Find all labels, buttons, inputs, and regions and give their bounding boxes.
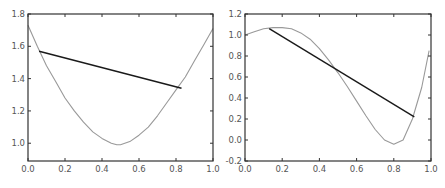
- x-tick-label: 0.2: [275, 164, 289, 174]
- figure-caption-clipped: [0, 182, 445, 188]
- curve-line: [245, 28, 429, 145]
- curve-line: [28, 25, 213, 145]
- y-tick-label: 1.6: [11, 41, 25, 51]
- x-tick-label: 0.4: [313, 164, 327, 174]
- x-tick-label: 0.8: [387, 164, 401, 174]
- x-tick-label: 0.2: [58, 164, 72, 174]
- y-tick-label: 0.2: [228, 114, 242, 124]
- secant-line: [39, 51, 181, 88]
- y-tick-label: 0.8: [228, 51, 242, 61]
- x-tick-label: 0.6: [132, 164, 146, 174]
- y-tick-label: -0.2: [225, 156, 242, 166]
- y-tick-label: 0.6: [228, 72, 242, 82]
- y-tick-label: 0.4: [228, 93, 242, 103]
- y-tick-label: 1.0: [228, 30, 242, 40]
- y-tick-label: 1.2: [228, 9, 242, 19]
- x-tick-label: 0.6: [350, 164, 364, 174]
- x-tick-label: 1.0: [424, 164, 438, 174]
- x-tick-label: 0.8: [169, 164, 183, 174]
- x-tick-label: 1.0: [206, 164, 220, 174]
- y-tick-label: 1.2: [11, 106, 25, 116]
- charts-canvas: 0.00.20.40.60.81.01.01.21.41.61.8 0.00.2…: [0, 0, 445, 188]
- secant-line: [269, 29, 414, 117]
- y-tick-label: 1.8: [11, 9, 25, 19]
- y-tick-label: 1.0: [11, 138, 25, 148]
- y-tick-label: 1.4: [11, 74, 25, 84]
- x-tick-label: 0.4: [95, 164, 109, 174]
- y-tick-label: 0.0: [228, 135, 242, 145]
- right-chart: 0.00.20.40.60.81.0-0.20.00.20.40.60.81.0…: [225, 9, 437, 174]
- left-chart: 0.00.20.40.60.81.01.01.21.41.61.8: [11, 9, 219, 174]
- plot-frame: [28, 14, 213, 161]
- x-tick-label: 0.0: [21, 164, 35, 174]
